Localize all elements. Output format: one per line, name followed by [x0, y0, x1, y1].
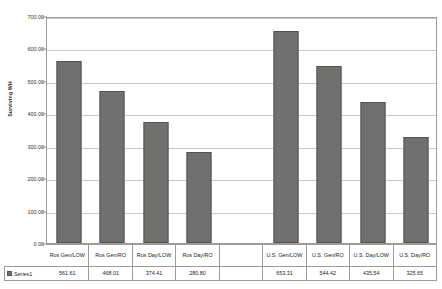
chart-data-table: Rus Gen/LOWRus Gen/RORus Day/LOWRus Day/… — [4, 244, 437, 283]
category-label: U.S. Day/LOW — [354, 252, 389, 259]
table-cell-category: Rus Day/LOW — [133, 244, 176, 266]
table-cell-category: U.S. Day/RO — [394, 244, 437, 266]
category-label: U.S. Gen/RO — [312, 252, 344, 259]
bar-slot — [177, 18, 220, 243]
bar[interactable] — [404, 137, 429, 243]
bar-slot — [395, 18, 438, 243]
bar-slot — [221, 18, 264, 243]
legend-swatch-icon — [7, 271, 12, 276]
value-label: 280.80 — [189, 270, 206, 277]
value-label: 544.42 — [320, 270, 337, 277]
bars-layer — [47, 18, 436, 243]
table-corner-categories — [4, 244, 46, 266]
table-row-categories: Rus Gen/LOWRus Gen/RORus Day/LOWRus Day/… — [4, 244, 437, 266]
bar-slot — [134, 18, 177, 243]
bar[interactable] — [273, 31, 298, 243]
table-cell-value: 325.65 — [394, 266, 437, 281]
table-cell-value: 374.41 — [133, 266, 176, 281]
category-label: Rus Gen/LOW — [50, 252, 85, 259]
y-axis-title: Surviving WH — [7, 59, 13, 139]
value-label: 561.61 — [59, 270, 76, 277]
bar-slot — [47, 18, 90, 243]
table-cell-category: Rus Gen/LOW — [46, 244, 89, 266]
table-cell-value: 435.54 — [350, 266, 393, 281]
table-cell-category: U.S. Gen/LOW — [263, 244, 306, 266]
bar-chart-with-data-table: Surviving WH 700.00600.00500.00400.00300… — [0, 0, 442, 289]
legend-label: Series1 — [14, 271, 32, 277]
table-cell-value-empty — [220, 266, 263, 281]
bar[interactable] — [56, 61, 81, 243]
value-label: 435.54 — [363, 270, 380, 277]
value-label: 653.31 — [276, 270, 293, 277]
bar-slot — [308, 18, 351, 243]
bar-slot — [351, 18, 394, 243]
category-label: Rus Day/LOW — [137, 252, 171, 259]
table-cell-value: 561.61 — [46, 266, 89, 281]
table-row-values: Series1 561.61468.01374.41280.80653.3154… — [4, 266, 437, 281]
table-cell-value: 280.80 — [176, 266, 219, 281]
table-cell-category: Rus Day/RO — [176, 244, 219, 266]
table-cell-value: 653.31 — [263, 266, 306, 281]
category-label: Rus Gen/RO — [95, 252, 126, 259]
bar[interactable] — [143, 122, 168, 243]
value-label: 468.01 — [102, 270, 119, 277]
bar[interactable] — [187, 152, 212, 243]
table-cell-category: U.S. Day/LOW — [350, 244, 393, 266]
value-label: 325.65 — [406, 270, 423, 277]
bar-slot — [90, 18, 133, 243]
bar[interactable] — [360, 102, 385, 243]
legend-entry-series1: Series1 — [4, 266, 46, 281]
category-label: Rus Day/RO — [182, 252, 212, 259]
bar[interactable] — [100, 91, 125, 243]
table-cell-category: Rus Gen/RO — [89, 244, 132, 266]
category-label: U.S. Day/RO — [399, 252, 430, 259]
table-cell-category-empty — [220, 244, 263, 266]
table-cell-value: 544.42 — [307, 266, 350, 281]
category-label: U.S. Gen/LOW — [266, 252, 302, 259]
bar-slot — [264, 18, 307, 243]
bar[interactable] — [317, 66, 342, 243]
table-cell-value: 468.01 — [89, 266, 132, 281]
table-cell-category: U.S. Gen/RO — [307, 244, 350, 266]
plot-area — [46, 17, 437, 244]
value-label: 374.41 — [146, 270, 163, 277]
